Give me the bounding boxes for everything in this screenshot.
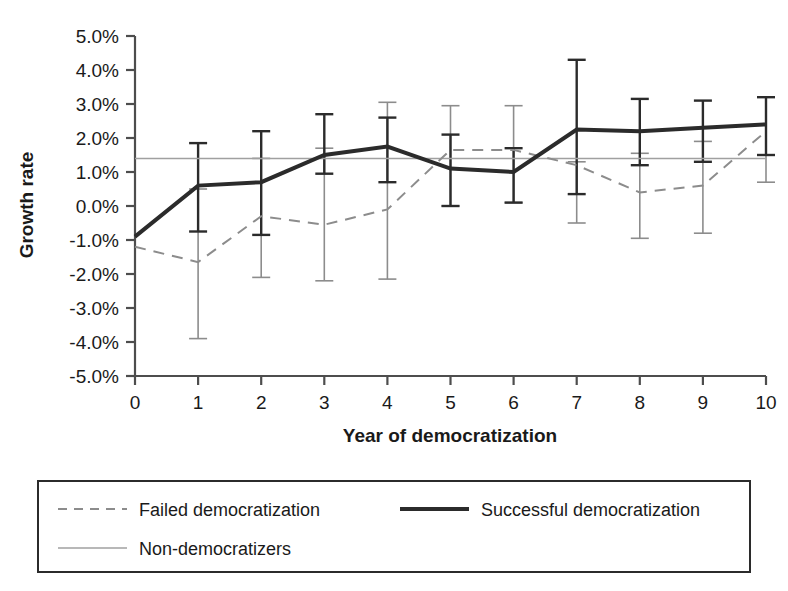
- y-axis-tick-label: 3.0%: [76, 94, 119, 115]
- y-axis-tick-label: -3.0%: [69, 298, 119, 319]
- y-axis-title: Growth rate: [16, 152, 37, 259]
- x-axis-tick-label: 6: [508, 392, 519, 413]
- x-axis-tick-label: 7: [571, 392, 582, 413]
- y-axis-tick-label: -4.0%: [69, 332, 119, 353]
- y-axis-tick-label: -2.0%: [69, 264, 119, 285]
- x-axis-tick-label: 4: [382, 392, 393, 413]
- x-axis-tick-label: 0: [130, 392, 141, 413]
- y-axis-tick-label: 1.0%: [76, 162, 119, 183]
- legend-label-successful-democratization: Successful democratization: [481, 500, 700, 520]
- x-axis-title: Year of democratization: [343, 425, 557, 446]
- y-axis-tick-labels: 5.0%4.0%3.0%2.0%1.0%0.0%-1.0%-2.0%-3.0%-…: [69, 26, 119, 387]
- x-axis-tick-label: 2: [256, 392, 267, 413]
- growth-rate-chart-figure: Growth rate 5.0%4.0%3.0%2.0%1.0%0.0%-1.0…: [0, 0, 788, 591]
- x-axis-tick-label: 1: [193, 392, 204, 413]
- y-axis-tick-label: -1.0%: [69, 230, 119, 251]
- x-axis-tick-label: 5: [445, 392, 456, 413]
- y-axis-tick-label: -5.0%: [69, 366, 119, 387]
- chart-canvas: Growth rate 5.0%4.0%3.0%2.0%1.0%0.0%-1.0…: [0, 0, 788, 591]
- y-axis-tick-label: 4.0%: [76, 60, 119, 81]
- y-axis-tick-label: 0.0%: [76, 196, 119, 217]
- x-axis-tick-label: 9: [698, 392, 709, 413]
- x-axis-tick-label: 10: [755, 392, 776, 413]
- legend-label-failed-democratization: Failed democratization: [139, 500, 320, 520]
- y-axis-tick-label: 5.0%: [76, 26, 119, 47]
- x-axis-tick-label: 8: [635, 392, 646, 413]
- y-axis-tick-label: 2.0%: [76, 128, 119, 149]
- x-axis-tick-label: 3: [319, 392, 330, 413]
- legend-label-non-democratizers: Non-democratizers: [139, 539, 291, 559]
